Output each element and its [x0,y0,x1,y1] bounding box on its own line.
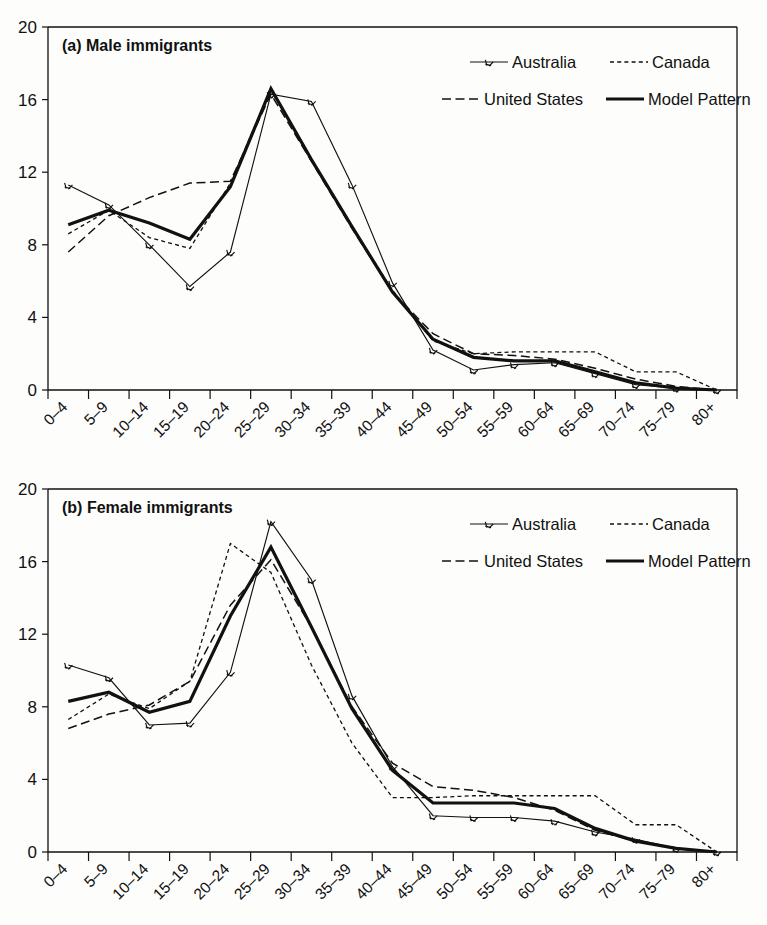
svg-text:40–44: 40–44 [352,860,395,903]
x-axis-tick-label: 0–4 [40,398,71,429]
y-axis-tick-label: 4 [28,770,37,789]
svg-text:75–79: 75–79 [636,860,679,903]
legend-label-model_pattern: Model Pattern [648,90,751,108]
legend-item-united_states[interactable]: United States [442,552,583,570]
y-axis-tick-label: 12 [18,625,37,644]
legend-item-canada[interactable]: Canada [610,515,711,533]
y-axis-tick-label: 12 [18,163,37,182]
data-point-marker [485,522,493,528]
legend-item-australia[interactable]: Australia [470,515,577,533]
svg-text:30–34: 30–34 [271,398,314,441]
svg-text:65–69: 65–69 [555,398,598,441]
svg-text:75–79: 75–79 [636,398,679,441]
svg-text:45–49: 45–49 [393,398,436,441]
legend-item-australia[interactable]: Australia [470,53,577,71]
data-point-marker [470,815,478,821]
x-axis-tick-label: 40–44 [352,860,395,903]
chart-legend: AustraliaCanadaUnited StatesModel Patter… [442,515,751,570]
series-line-australia [68,522,716,852]
data-point-marker [429,814,437,820]
series-line-model_pattern [68,89,716,390]
svg-text:25–29: 25–29 [231,398,274,441]
svg-text:0–4: 0–4 [40,398,71,429]
svg-text:35–39: 35–39 [312,398,355,441]
x-axis-tick-label: 35–39 [312,398,355,441]
svg-text:60–64: 60–64 [514,860,557,903]
legend-item-united_states[interactable]: United States [442,90,583,108]
svg-text:65–69: 65–69 [555,860,598,903]
x-axis-tick-label: 55–59 [474,860,517,903]
x-axis-tick-label: 10–14 [109,860,152,903]
y-axis-tick-label: 8 [28,698,37,717]
x-axis-tick-label: 20–24 [190,860,233,903]
x-axis-tick-label: 5–9 [81,398,111,428]
x-axis-tick-label: 15–19 [150,860,193,903]
data-point-marker [429,348,437,354]
svg-text:35–39: 35–39 [312,860,355,903]
chart-panel-male: 0481216200–45–910–1415–1920–2425–2930–34… [0,0,767,460]
legend-label-canada: Canada [652,53,711,71]
legend-label-australia: Australia [512,53,577,71]
svg-text:30–34: 30–34 [271,860,314,903]
x-axis-tick-label: 50–54 [433,398,476,441]
x-axis-tick-label: 30–34 [271,860,314,903]
panel-title: (b) Female immigrants [62,499,233,516]
plot-frame [48,489,737,852]
x-axis-tick-label: 35–39 [312,860,355,903]
legend-label-australia: Australia [512,515,577,533]
data-point-marker [65,663,73,669]
svg-text:15–19: 15–19 [150,860,193,903]
svg-text:20–24: 20–24 [190,398,233,441]
x-axis-tick-label: 0–4 [40,860,71,891]
y-axis-tick-label: 20 [18,18,37,37]
svg-text:50–54: 50–54 [433,860,476,903]
x-axis-tick-label: 75–79 [636,398,679,441]
chart-legend: AustraliaCanadaUnited StatesModel Patter… [442,53,751,108]
x-axis-tick-label: 25–29 [231,860,274,903]
x-axis-tick-label: 25–29 [231,398,274,441]
legend-item-model_pattern[interactable]: Model Pattern [606,90,751,108]
svg-text:10–14: 10–14 [109,398,152,441]
svg-text:0–4: 0–4 [40,860,71,891]
y-axis-tick-label: 8 [28,236,37,255]
legend-item-model_pattern[interactable]: Model Pattern [606,552,751,570]
x-axis-tick-label: 20–24 [190,398,233,441]
data-point-marker [551,819,559,825]
panel-title: (a) Male immigrants [62,37,212,54]
legend-item-canada[interactable]: Canada [610,53,711,71]
series-line-australia [68,94,716,390]
chart-svg-female: 0481216200–45–910–1415–1920–2425–2930–34… [0,462,767,925]
x-axis-tick-label: 60–64 [514,860,557,903]
series-line-canada [68,89,716,390]
x-axis-tick-label: 30–34 [271,398,314,441]
y-axis-tick-label: 16 [18,553,37,572]
series-line-canada [68,543,716,852]
svg-text:5–9: 5–9 [81,398,111,428]
x-axis-tick-label: 50–54 [433,860,476,903]
x-axis-tick-label: 80+ [688,860,719,891]
svg-text:5–9: 5–9 [81,860,111,890]
chart-svg-male: 0481216200–45–910–1415–1920–2425–2930–34… [0,0,767,460]
data-point-marker [510,815,518,821]
x-axis-tick-label: 55–59 [474,398,517,441]
legend-label-canada: Canada [652,515,711,533]
data-point-marker [186,284,194,290]
y-axis-tick-label: 4 [28,308,37,327]
svg-text:20–24: 20–24 [190,860,233,903]
data-point-marker [485,60,493,66]
svg-text:40–44: 40–44 [352,398,395,441]
x-axis-tick-label: 10–14 [109,398,152,441]
svg-text:55–59: 55–59 [474,398,517,441]
svg-text:80+: 80+ [688,398,719,429]
x-axis-tick-label: 45–49 [393,860,436,903]
x-axis-tick-label: 15–19 [150,398,193,441]
svg-text:80+: 80+ [688,860,719,891]
x-axis-tick-label: 40–44 [352,398,395,441]
x-axis-tick-label: 70–74 [595,398,638,441]
plot-frame [48,27,737,390]
y-axis-tick-label: 16 [18,91,37,110]
svg-text:25–29: 25–29 [231,860,274,903]
legend-label-model_pattern: Model Pattern [648,552,751,570]
y-axis-tick-label: 20 [18,480,37,499]
svg-text:55–59: 55–59 [474,860,517,903]
